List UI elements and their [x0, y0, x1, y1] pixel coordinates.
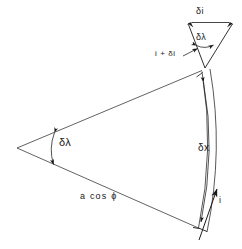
arc-band-bottom-tick: [193, 228, 207, 232]
wedge-top-edge: [17, 71, 202, 149]
delta-i-label: δi: [196, 7, 204, 16]
i-plus-delta-i-label: i + δi: [155, 50, 176, 58]
figure-container: δi δλ i + δi δλ δx a cos ϕ i: [0, 0, 242, 249]
wedge-bottom-edge: [17, 148, 199, 228]
a-cos-phi-label: a cos ϕ: [80, 192, 117, 201]
delta-i-dimension-arrow: [188, 22, 234, 27]
tangent-direction-arrow: [199, 189, 217, 240]
delta-x-label: δx: [198, 143, 209, 153]
delta-lambda-main-label: δλ: [59, 137, 71, 148]
delta-lambda-angle-arc: [51, 133, 54, 165]
delta-lambda-small-angle-arc: [197, 45, 214, 47]
inner-arc-top-tick: [197, 73, 203, 78]
delta-lambda-small-label: δλ: [196, 33, 206, 42]
i-tangent-label: i: [219, 196, 221, 205]
i-plus-delta-i-leader: [183, 49, 198, 57]
